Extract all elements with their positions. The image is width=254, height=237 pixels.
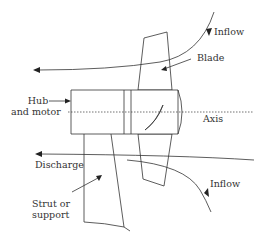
label-discharge: Discharge: [35, 159, 84, 170]
label-strut-line1: Strut or: [32, 198, 70, 209]
inflow-top-arrow-icon: [206, 28, 212, 36]
strut: [84, 134, 124, 227]
label-hub-line2: and motor: [11, 106, 61, 117]
strut-leader-arrow-icon: [96, 175, 102, 181]
label-strut-line2: support: [32, 209, 69, 220]
inflow-top-curve: [38, 12, 214, 70]
discharge-top-arrow-icon: [33, 67, 40, 73]
blade-leader-arrow-icon: [161, 66, 167, 71]
label-axis: Axis: [203, 113, 223, 124]
label-inflow-bottom: Inflow: [210, 178, 240, 189]
label-inflow-top: Inflow: [214, 26, 244, 37]
hub-leader-arrow-icon: [65, 99, 71, 104]
lower-blade: [138, 134, 172, 186]
inflow-bottom-curve: [127, 160, 211, 212]
discharge-arrow-icon: [35, 151, 42, 157]
strut-tail: [124, 227, 130, 231]
upper-blade: [138, 32, 172, 90]
inflow-bottom-arrow-icon: [204, 188, 209, 197]
strut-leader: [72, 178, 98, 192]
label-hub-line1: Hub: [24, 95, 52, 106]
label-blade: Blade: [197, 52, 224, 63]
pump-diagram: Inflow Blade Hub and motor Axis Discharg…: [0, 0, 254, 237]
